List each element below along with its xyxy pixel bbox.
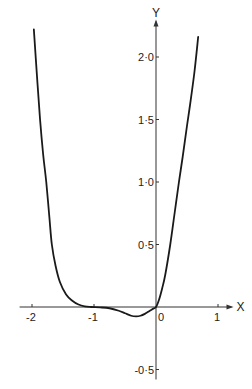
series-line-curve: [34, 30, 198, 317]
axes: X Y: [20, 6, 245, 380]
y-tick-label: 0·5: [138, 239, 154, 251]
x-axis-arrow: [227, 305, 234, 310]
y-tick-label: 2·0: [138, 51, 154, 63]
y-ticks: 2·01·51·00·5-0·5: [134, 51, 159, 376]
x-tick-label: -2: [26, 311, 36, 323]
plot-area: [34, 30, 198, 317]
x-tick-label: 0: [158, 311, 164, 323]
y-tick-label: 1·5: [138, 114, 154, 126]
x-tick-label: 1: [214, 311, 220, 323]
y-axis-arrow: [154, 20, 159, 27]
y-tick-label: -0·5: [134, 364, 154, 376]
y-axis-label: Y: [152, 6, 160, 20]
chart: X Y -2-101 2·01·51·00·5-0·5: [0, 0, 252, 389]
x-axis-label: X: [237, 300, 245, 314]
x-tick-label: -1: [88, 311, 98, 323]
y-tick-label: 1·0: [138, 176, 154, 188]
